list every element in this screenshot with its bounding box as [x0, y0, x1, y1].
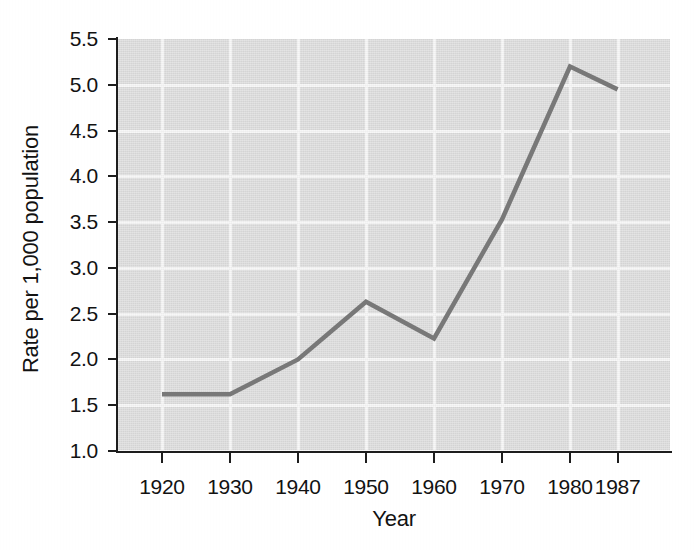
y-axis-line	[116, 37, 118, 453]
x-axis-label: Year	[118, 508, 670, 530]
y-tick-label: 3.0	[36, 257, 98, 278]
x-tick-mark	[569, 452, 571, 463]
x-tick-label: 1987	[578, 476, 658, 498]
data-series-line	[118, 39, 670, 451]
y-tick-label: 5.0	[36, 74, 98, 95]
y-tick-label: 2.0	[36, 348, 98, 369]
x-axis-line	[116, 451, 672, 453]
y-tick-label: 4.0	[36, 165, 98, 186]
y-tick-label: 2.5	[36, 303, 98, 324]
y-tick-label: 1.5	[36, 394, 98, 415]
y-axis-label: Rate per 1,000 population	[20, 99, 42, 399]
plot-area	[118, 39, 670, 451]
x-tick-mark	[297, 452, 299, 463]
x-tick-mark	[433, 452, 435, 463]
y-tick-label: 3.5	[36, 211, 98, 232]
x-tick-mark	[501, 452, 503, 463]
x-tick-mark	[617, 452, 619, 463]
y-tick-label: 1.0	[36, 440, 98, 461]
y-tick-label: 5.5	[36, 28, 98, 49]
x-tick-mark	[229, 452, 231, 463]
y-tick-label: 4.5	[36, 120, 98, 141]
chart-figure: 5.55.04.54.03.53.02.52.01.51.0 192019301…	[0, 0, 694, 550]
x-tick-mark	[161, 452, 163, 463]
x-tick-mark	[365, 452, 367, 463]
